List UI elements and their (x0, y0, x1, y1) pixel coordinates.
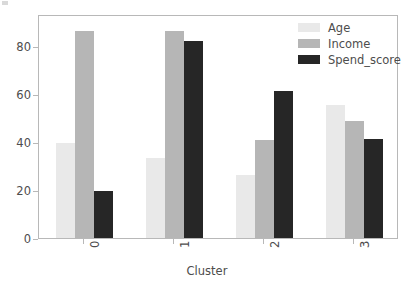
y-axis-tick-labels: 020406080 (0, 0, 31, 287)
x-tick-label-3: 3 (358, 241, 372, 248)
y-tick-label-0: 0 (24, 232, 31, 246)
legend-swatch-age (298, 23, 320, 32)
bar-age-cluster-0 (56, 143, 75, 238)
bar-age-cluster-1 (146, 158, 165, 238)
legend-label-income: Income (328, 37, 370, 51)
bar-income-cluster-1 (165, 31, 184, 238)
x-tick-label-2: 2 (268, 241, 282, 248)
legend-label-spend_score: Spend_score (328, 53, 401, 67)
x-tick-mark-0 (83, 239, 84, 244)
x-tick-mark-2 (263, 239, 264, 244)
legend-item-age: Age (298, 20, 394, 35)
chart-legend: AgeIncomeSpend_score (298, 20, 394, 68)
y-tick-label-60: 60 (16, 88, 31, 102)
bar-spend_score-cluster-3 (364, 139, 383, 238)
legend-swatch-income (298, 39, 320, 48)
y-tick-label-80: 80 (16, 40, 31, 54)
bar-age-cluster-3 (326, 105, 345, 238)
bar-spend_score-cluster-0 (94, 191, 113, 238)
y-tick-label-20: 20 (16, 184, 31, 198)
x-tick-mark-1 (173, 239, 174, 244)
legend-label-age: Age (328, 21, 350, 35)
bar-income-cluster-0 (75, 31, 94, 238)
bar-spend_score-cluster-1 (184, 41, 203, 238)
y-tick-label-40: 40 (16, 136, 31, 150)
bar-income-cluster-3 (345, 121, 364, 238)
legend-item-income: Income (298, 36, 394, 51)
x-tick-label-1: 1 (178, 241, 192, 248)
y-tick-mark-0 (33, 239, 38, 240)
chart-figure: 020406080 0123 Cluster AgeIncomeSpend_sc… (0, 0, 414, 287)
bar-income-cluster-2 (255, 140, 274, 238)
legend-swatch-spend_score (298, 55, 320, 64)
x-tick-label-0: 0 (88, 241, 102, 248)
x-tick-mark-3 (353, 239, 354, 244)
bar-age-cluster-2 (236, 175, 255, 238)
x-axis-label: Cluster (0, 264, 414, 278)
legend-item-spend_score: Spend_score (298, 52, 394, 67)
bar-spend_score-cluster-2 (274, 91, 293, 238)
